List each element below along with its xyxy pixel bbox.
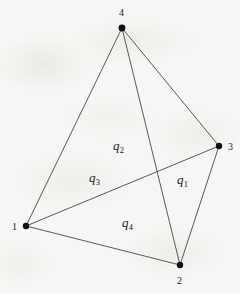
graph-node-3 xyxy=(216,143,222,149)
region-label-q3: q3 xyxy=(89,171,100,184)
graph-edge-1-2 xyxy=(26,226,180,265)
graph-edge-1-3 xyxy=(26,146,219,226)
graph-node-1 xyxy=(23,223,29,229)
node-label-2: 2 xyxy=(177,276,182,286)
graph-edge-1-4 xyxy=(26,28,122,226)
region-label-base: q xyxy=(89,170,96,185)
region-label-base: q xyxy=(177,172,184,187)
region-label-subscript: 2 xyxy=(120,145,124,155)
graph-node-2 xyxy=(177,262,183,268)
region-label-q2: q2 xyxy=(113,139,124,152)
region-label-q1: q1 xyxy=(177,173,188,186)
figure-canvas: 1234 q1q2q3q4 xyxy=(0,0,240,293)
graph-edge-3-2 xyxy=(180,146,219,265)
region-label-q4: q4 xyxy=(122,216,133,229)
region-label-base: q xyxy=(122,215,129,230)
region-label-subscript: 4 xyxy=(129,222,133,232)
region-label-base: q xyxy=(113,138,120,153)
region-label-subscript: 1 xyxy=(184,179,188,189)
graph-node-4 xyxy=(119,25,126,32)
node-label-4: 4 xyxy=(119,8,124,18)
node-label-1: 1 xyxy=(12,222,17,232)
node-label-3: 3 xyxy=(228,142,233,152)
region-label-subscript: 3 xyxy=(96,177,100,187)
